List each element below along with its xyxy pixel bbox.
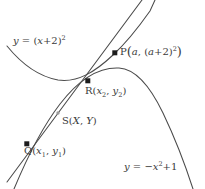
label-up-eq: = [19, 35, 34, 46]
label-down-tail: +1 [163, 161, 178, 172]
label-p-close-paren: ) [177, 44, 182, 59]
label-up-exponent: 2 [62, 34, 66, 42]
label-downward-parabola: y = −x2+1 [124, 162, 177, 172]
label-point-p: P(a, (a+2)2) [120, 47, 182, 57]
point-marker-s [56, 111, 59, 114]
label-point-q: Q(x1, y1) [24, 146, 66, 156]
point-marker-r [85, 78, 90, 83]
label-s-close-paren: ) [93, 115, 97, 126]
label-s-y-var: Y [86, 115, 93, 126]
label-s-x-var: X [73, 115, 80, 126]
label-down-eq: = − [130, 161, 153, 172]
label-p-inner-plus: +2 [154, 46, 169, 57]
label-r-name: R [85, 85, 93, 96]
label-upward-parabola: y = (x+2)2 [13, 36, 66, 46]
label-p-name: P [120, 46, 127, 57]
label-up-plus-two: +2 [43, 35, 58, 46]
math-figure: y = (x+2)2 P(a, (a+2)2) R(x2, y2) S(X, Y… [0, 0, 205, 189]
label-point-r: R(x2, y2) [85, 86, 126, 96]
point-marker-p [112, 50, 117, 55]
label-r-close-paren: ) [122, 85, 126, 96]
label-s-name: S [62, 115, 69, 126]
label-q-close-paren: ) [62, 145, 66, 156]
label-point-s: S(X, Y) [62, 116, 97, 126]
label-q-name: Q [24, 145, 32, 156]
